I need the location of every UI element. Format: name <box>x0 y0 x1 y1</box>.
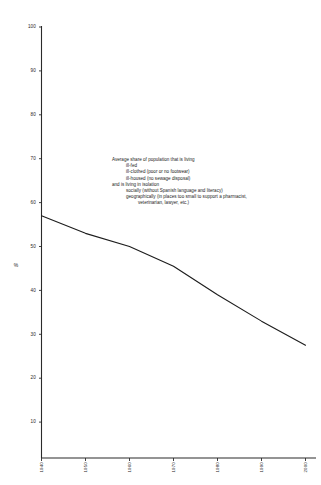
chart-container: 102030405060708090100 194019501960197019… <box>0 0 321 485</box>
y-axis: 102030405060708090100 <box>28 24 42 458</box>
series-line-poverty-isolation <box>42 216 306 345</box>
x-tick-label: 1960 <box>127 462 132 473</box>
data-series <box>42 216 306 345</box>
y-tick-label: 30 <box>31 332 37 337</box>
y-tick-label: 20 <box>31 375 37 380</box>
x-tick-label: 1950 <box>83 462 88 473</box>
x-tick-label: 1970 <box>171 462 176 473</box>
y-tick-label: 60 <box>31 200 37 205</box>
line-chart: 102030405060708090100 194019501960197019… <box>0 0 321 485</box>
y-tick-label: 50 <box>31 244 37 249</box>
x-tick-group: 1940195019601970198019902000 <box>39 458 308 473</box>
y-tick-label: 70 <box>31 156 37 161</box>
annotation-line: veterinarian, lawyer, etc.) <box>112 200 317 206</box>
x-tick-label: 1940 <box>39 462 44 473</box>
y-tick-label: 90 <box>31 68 37 73</box>
y-axis-title: % <box>14 262 19 268</box>
y-tick-label: 40 <box>31 288 37 293</box>
x-tick-label: 1980 <box>215 462 220 473</box>
x-tick-label: 1990 <box>259 462 264 473</box>
y-tick-label: 10 <box>31 419 37 424</box>
y-tick-group: 102030405060708090100 <box>28 24 42 424</box>
chart-annotation: Average share of population that is livi… <box>112 157 317 207</box>
y-tick-label: 100 <box>28 24 36 29</box>
x-axis: 1940195019601970198019902000 <box>39 458 316 473</box>
x-tick-label: 2000 <box>303 462 308 473</box>
y-tick-label: 80 <box>31 112 37 117</box>
